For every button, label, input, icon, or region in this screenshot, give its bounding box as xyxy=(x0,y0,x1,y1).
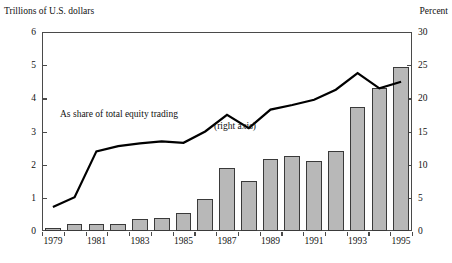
annotation-right-axis-label: (right axis) xyxy=(60,120,256,132)
chart-figure: Trillions of U.S. dollars Percent 012345… xyxy=(0,0,452,263)
share-line-path xyxy=(53,73,401,207)
annotation-share-label: As share of total equity trading xyxy=(60,108,178,120)
